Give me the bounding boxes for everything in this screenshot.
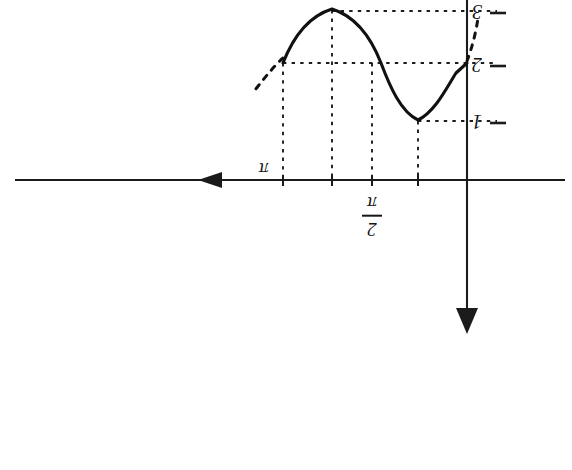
y-axis-label-3: 3: [472, 2, 482, 22]
y-axis-arrow-down-icon: [456, 308, 478, 334]
fraction-bar: [362, 215, 382, 217]
figure-canvas: 3 2 1 π 2 π: [0, 0, 572, 470]
x-axis-label-pi: π: [259, 160, 269, 179]
y-axis: [456, 0, 506, 334]
curve-group: [255, 9, 478, 120]
vertical-guide-lines: [283, 10, 418, 180]
x-axis-label-pi-over-2: 2 π: [356, 192, 388, 240]
x-axis: [15, 172, 565, 188]
cosine-curve-dashed-left: [255, 58, 283, 90]
graph-svg: [0, 0, 572, 470]
y-axis-label-2: 2: [472, 55, 482, 75]
fraction-denominator: π: [356, 192, 388, 214]
fraction-numerator: 2: [356, 218, 388, 240]
y-axis-label-1: 1: [472, 112, 482, 132]
x-axis-arrow-left-icon: [198, 172, 222, 188]
cosine-curve-solid: [283, 9, 467, 120]
